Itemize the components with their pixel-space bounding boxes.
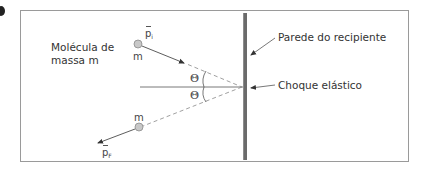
final-mass-label: m: [134, 111, 144, 124]
wall-pointer-arrow: [251, 38, 275, 55]
angle-label-top: Θ: [190, 72, 199, 85]
wall-label: Parede do recipiente: [278, 31, 386, 44]
final-momentum-subscript: F: [108, 152, 111, 159]
initial-momentum-label: pi: [145, 29, 153, 42]
collision-diagram: [0, 0, 428, 175]
initial-momentum-subscript: i: [151, 33, 153, 40]
angle-label-bottom: Θ: [190, 89, 199, 102]
final-momentum-arrow: [98, 129, 135, 143]
initial-molecule-icon: [134, 40, 142, 48]
molecule-description-line1: Molécula de: [51, 41, 114, 54]
collision-label: Choque elástico: [278, 79, 362, 92]
container-wall: [243, 13, 247, 160]
vector-bar-icon: [146, 26, 151, 27]
angle-arc-top-icon: [203, 71, 206, 87]
final-molecule-icon: [135, 123, 143, 131]
initial-mass-label: m: [133, 50, 143, 63]
collision-pointer-arrow: [251, 85, 275, 88]
final-momentum-label: pF: [102, 148, 112, 161]
vector-bar-icon: [103, 145, 108, 146]
molecule-description-line2: massa m: [51, 54, 114, 67]
initial-momentum-arrow: [142, 46, 184, 63]
angle-arc-bottom-icon: [203, 87, 206, 102]
molecule-description-label: Molécula de massa m: [51, 41, 114, 67]
